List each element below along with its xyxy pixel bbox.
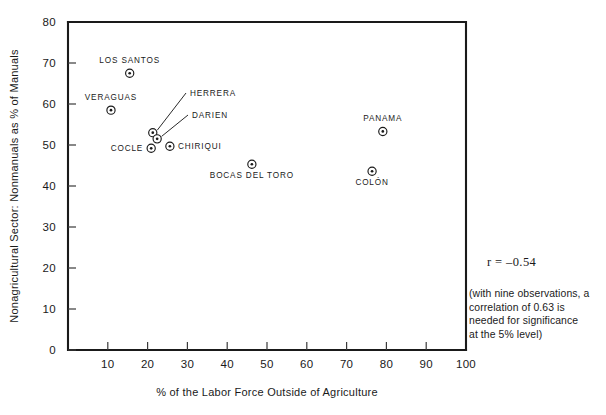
point-label-colon: COLÓN — [355, 177, 388, 187]
y-tick-label-80: 80 — [43, 16, 56, 28]
significance-note-line-1: (with nine observations, a — [469, 287, 601, 301]
y-tick-label-20: 20 — [43, 262, 56, 274]
point-label-herrera: HERRERA — [190, 89, 236, 98]
data-point-darien — [153, 135, 161, 143]
significance-note-line-3: needed for significance — [469, 314, 601, 328]
y-axis-title: Nonagricultural Sector: Nonmanuals as % … — [8, 49, 20, 323]
point-label-panama: PANAMA — [363, 114, 402, 123]
x-tick-label-90: 90 — [419, 358, 432, 370]
label-leader-lines — [157, 93, 188, 136]
point-label-veraguas: VERAGUAS — [85, 93, 137, 102]
x-tick-label-50: 50 — [260, 358, 273, 370]
significance-note: (with nine observations, a correlation o… — [469, 287, 601, 341]
y-axis-ticks — [68, 63, 76, 350]
x-tick-label-70: 70 — [340, 358, 353, 370]
plot-canvas: 01020304050607080 102030405060708090100 … — [0, 0, 606, 415]
x-tick-label-30: 30 — [181, 358, 194, 370]
correlation-annotation: r = –0.54 — [487, 255, 536, 270]
x-tick-label-80: 80 — [380, 358, 393, 370]
y-tick-label-60: 60 — [43, 98, 56, 110]
leader-line-darien — [162, 115, 188, 136]
x-tick-label-60: 60 — [300, 358, 313, 370]
x-tick-label-100: 100 — [456, 358, 476, 370]
x-axis-ticks — [108, 342, 426, 350]
data-point-cocle — [147, 144, 155, 152]
x-tick-label-20: 20 — [141, 358, 154, 370]
point-label-bocas-del-toro: BOCAS DEL TORO — [210, 171, 294, 180]
data-point-colon — [368, 167, 376, 175]
data-point-los-santos — [126, 69, 134, 77]
y-tick-label-70: 70 — [43, 57, 56, 69]
x-axis-title: % of the Labor Force Outside of Agricult… — [156, 386, 378, 398]
y-tick-label-40: 40 — [43, 180, 56, 192]
data-point-panama — [379, 127, 387, 135]
significance-note-line-4: at the 5% level) — [469, 328, 601, 342]
data-point-bocas-del-toro — [248, 160, 256, 168]
y-tick-label-30: 30 — [43, 221, 56, 233]
point-label-los-santos: LOS SANTOS — [99, 56, 160, 65]
y-tick-label-0: 0 — [49, 344, 56, 356]
y-axis-tick-labels: 01020304050607080 — [43, 16, 56, 356]
x-tick-label-40: 40 — [220, 358, 233, 370]
scatter-plot-figure: 01020304050607080 102030405060708090100 … — [0, 0, 606, 415]
data-point-veraguas — [107, 106, 115, 114]
point-label-darien: DARIEN — [192, 111, 228, 120]
x-axis-tick-labels: 102030405060708090100 — [101, 358, 476, 370]
point-label-cocle: COCLE — [111, 144, 143, 153]
data-markers — [107, 69, 387, 175]
data-point-chiriqui — [166, 142, 174, 150]
point-label-chiriqui: CHIRIQUI — [178, 142, 222, 151]
y-tick-label-50: 50 — [43, 139, 56, 151]
significance-note-line-2: correlation of 0.63 is — [469, 301, 601, 315]
leader-line-herrera — [157, 93, 186, 130]
y-tick-label-10: 10 — [43, 303, 56, 315]
x-tick-label-10: 10 — [101, 358, 114, 370]
